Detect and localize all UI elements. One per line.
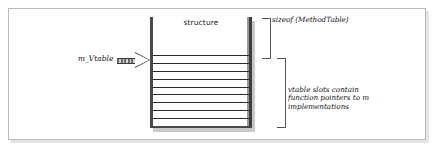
structure-box: structure [150,17,252,128]
block-arrow-right-icon [117,53,152,68]
sizeof-bracket [262,18,271,59]
vtable-structure-diagram: structure m_Vtable sizeof (MethodTable) … [0,0,438,154]
structure-header-region: structure [153,17,249,55]
structure-bottom-edge [150,126,252,128]
vtable-slot [153,110,249,118]
structure-header-label: structure [153,18,249,27]
vtable-slot [153,102,249,110]
structure-right-rail [249,17,252,128]
vtable-slot [153,55,249,63]
vtable-slot [153,87,249,95]
vtable-slots-bracket [277,58,286,128]
vtable-slot [153,118,249,126]
vtable-slot [153,71,249,79]
m-vtable-label: m_Vtable [78,54,113,63]
arrow-head [135,53,149,67]
vtable-slot [153,94,249,102]
arrow-tail [117,58,136,64]
vtable-slots-annotation-line-3: implementations [288,103,369,111]
vtable-slot [153,79,249,87]
vtable-slot [153,63,249,71]
vtable-slots-annotation: vtable slots contain function pointers t… [288,86,369,111]
sizeof-annotation: sizeof (MethodTable) [272,16,349,24]
vtable-slot-list [153,55,249,126]
